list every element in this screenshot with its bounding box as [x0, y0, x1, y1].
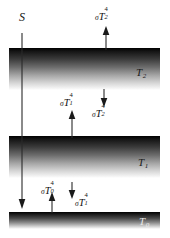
- flux-exponent-subscript: 42: [105, 10, 110, 20]
- temperature-label-t0: T0: [139, 216, 149, 227]
- temperature-sub-t0: 0: [146, 221, 150, 229]
- radiative-equilibrium-figure: T2 T1 T0 S σT42 σT41 σT42: [0, 0, 170, 238]
- solar-beam-label: S: [19, 11, 25, 23]
- temperature-base-t1: T: [138, 156, 144, 168]
- outgoing-longwave-top-arrow: [101, 26, 113, 50]
- flux-subscript: 1: [70, 100, 73, 107]
- temperature-base-t2: T: [136, 66, 142, 78]
- solar-beam-arrow: [17, 33, 29, 211]
- flux-subscript: 0: [51, 188, 54, 195]
- temperature-sub-t1: 1: [145, 162, 149, 170]
- flux-exponent: 4: [51, 180, 54, 187]
- temperature-base-t0: T: [139, 215, 145, 227]
- temperature-label-t1: T1: [138, 157, 148, 168]
- upward-flux-layer1-arrow: [67, 110, 79, 138]
- temperature-label-t2: T2: [136, 67, 146, 78]
- flux-exponent: 4: [102, 103, 105, 110]
- surface-layer: [9, 212, 160, 229]
- flux-exponent: 4: [85, 192, 88, 199]
- flux-subscript: 2: [102, 111, 105, 118]
- flux-exponent-subscript: 41: [70, 96, 75, 106]
- outgoing-longwave-top-label: σT42: [95, 10, 110, 23]
- flux-exponent-subscript: 42: [102, 107, 107, 117]
- flux-exponent: 4: [70, 92, 73, 99]
- flux-subscript: 1: [85, 200, 88, 207]
- flux-exponent-subscript: 41: [85, 196, 90, 206]
- temperature-sub-t2: 2: [143, 72, 147, 80]
- upward-flux-surface-label: σT40: [41, 184, 56, 197]
- flux-subscript: 2: [105, 14, 108, 21]
- flux-exponent-subscript: 40: [51, 184, 56, 194]
- flux-exponent: 4: [105, 6, 108, 13]
- downward-flux-layer2-label: σT42: [92, 107, 107, 120]
- upward-flux-layer1-label: σT41: [60, 96, 75, 109]
- downward-flux-layer1-label: σT41: [75, 196, 90, 209]
